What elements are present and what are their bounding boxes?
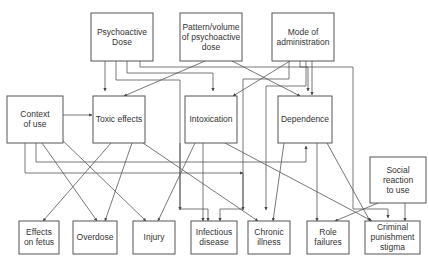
node-label: Chronic — [254, 227, 284, 237]
node-label: Mode of — [288, 27, 319, 37]
node-mode-admin: Mode ofadministration — [272, 13, 334, 61]
node-intoxication: Intoxication — [185, 96, 237, 143]
edge-pattern-to-toxic — [124, 61, 205, 96]
node-criminal-punishment: Criminalpunishmentstigma — [365, 221, 420, 254]
node-label: on fetus — [24, 237, 54, 247]
node-label: illness — [257, 237, 281, 247]
edge-loop-to-infectious — [220, 173, 243, 221]
node-label: Dependence — [281, 114, 329, 124]
node-label: to use — [386, 185, 409, 195]
node-overdose: Overdose — [73, 221, 117, 254]
node-label: dose — [202, 42, 221, 52]
node-label: stigma — [380, 242, 405, 252]
node-role-failures: Rolefailures — [307, 221, 349, 254]
node-context-of-use: Contextof use — [7, 96, 63, 143]
node-label: Intoxication — [190, 114, 233, 124]
node-label: reaction — [383, 175, 414, 185]
node-label: Overdose — [77, 232, 114, 242]
node-chronic-illness: Chronicillness — [248, 221, 290, 254]
edge-dependence-to-chronic — [273, 143, 284, 221]
node-label: Pattern/volume — [182, 22, 239, 32]
node-label: Role — [319, 227, 337, 237]
node-label: failures — [314, 237, 341, 247]
node-label: Injury — [144, 232, 166, 242]
node-label: Context — [20, 109, 50, 119]
node-label: Psychoactive — [97, 27, 147, 37]
edge-intoxication-to-criminal — [225, 143, 372, 221]
node-label: punishment — [371, 232, 416, 242]
node-label: Social — [386, 165, 409, 175]
edge-toxic-to-overdose — [105, 143, 132, 221]
nodes: PsychoactiveDosePattern/volumeof psychoa… — [7, 13, 426, 254]
node-psychoactive-dose: PsychoactiveDose — [91, 13, 153, 61]
edge-context-to-dependence — [36, 143, 306, 162]
node-label: Dose — [112, 37, 132, 47]
node-infectious-disease: Infectiousdisease — [191, 221, 237, 254]
node-label: disease — [199, 237, 229, 247]
edge-intoxication-loop — [180, 143, 208, 221]
edge-social-to-role — [335, 203, 378, 221]
node-label: Toxic effects — [96, 114, 143, 124]
node-injury: Injury — [133, 221, 175, 254]
node-label: Infectious — [196, 227, 232, 237]
node-pattern-volume: Pattern/volumeof psychoactivedose — [180, 13, 242, 61]
node-label: Effects — [26, 227, 52, 237]
node-label: administration — [277, 37, 330, 47]
node-dependence: Dependence — [278, 96, 332, 143]
edge-context-to-overdose — [42, 143, 97, 221]
node-label: of psychoactive — [182, 32, 241, 42]
edge-context-to-intoxication — [25, 143, 243, 173]
node-label: of use — [23, 119, 46, 129]
node-toxic-effects: Toxic effects — [93, 96, 145, 143]
node-social-reaction: Socialreactionto use — [370, 157, 426, 203]
node-effects-on-fetus: Effectson fetus — [19, 221, 59, 254]
causal-diagram: PsychoactiveDosePattern/volumeof psychoa… — [0, 0, 429, 258]
node-label: Criminal — [377, 222, 408, 232]
edge-context-to-injury — [57, 135, 146, 221]
